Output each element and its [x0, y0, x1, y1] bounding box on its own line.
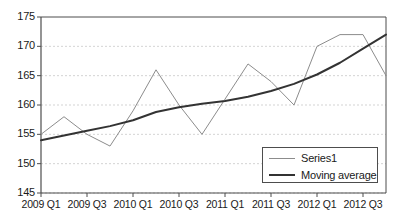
y-axis-tick-label: 170 — [5, 40, 35, 51]
x-axis-tick-label: 2012 Q1 — [293, 199, 341, 210]
line-chart: 145150155160165170175 2009 Q12009 Q32010… — [0, 0, 405, 219]
y-axis-tick-label: 165 — [5, 70, 35, 81]
plot-area — [0, 0, 405, 219]
x-axis-ticks — [41, 193, 363, 197]
y-axis-tick-label: 155 — [5, 128, 35, 139]
x-axis-tick-label: 2011 Q3 — [247, 199, 295, 210]
x-axis-tick-label: 2009 Q1 — [17, 199, 65, 210]
x-axis-tick-label: 2009 Q3 — [63, 199, 111, 210]
y-axis-tick-label: 145 — [5, 187, 35, 198]
legend-item-series1: Series1 — [269, 152, 337, 164]
legend-swatch-moving-average — [269, 174, 295, 176]
legend-swatch-series1 — [269, 158, 295, 159]
legend-label-moving-average: Moving average — [301, 169, 376, 181]
chart-legend: Series1 Moving average — [262, 147, 378, 183]
series-line-moving-average — [41, 35, 386, 141]
x-axis-tick-label: 2010 Q3 — [155, 199, 203, 210]
x-axis-tick-label: 2010 Q1 — [109, 199, 157, 210]
legend-label-series1: Series1 — [301, 152, 337, 164]
legend-item-moving-average: Moving average — [269, 169, 376, 181]
y-axis-tick-label: 160 — [5, 99, 35, 110]
y-axis-tick-label: 150 — [5, 158, 35, 169]
x-axis-tick-label: 2011 Q1 — [201, 199, 249, 210]
x-axis-tick-label: 2012 Q3 — [339, 199, 387, 210]
y-axis-tick-label: 175 — [5, 11, 35, 22]
